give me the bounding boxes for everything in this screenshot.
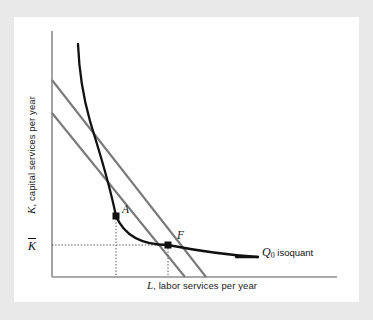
kbar-overline-symbol: K <box>28 238 36 252</box>
point-f-label: F <box>177 229 184 241</box>
y-axis-text: , capital services per year <box>26 96 37 206</box>
point-f-marker <box>165 242 172 249</box>
x-axis-text: , labor services per year <box>153 280 257 291</box>
isoquant-curve <box>78 44 258 257</box>
isoquant-symbol: Q <box>262 245 271 259</box>
y-axis-tick-label-kbar: K <box>28 238 36 254</box>
point-a-label: A <box>122 203 129 215</box>
point-a-marker <box>113 213 120 220</box>
plot-panel: K, capital services per year L, labor se… <box>14 17 359 302</box>
figure-root: K, capital services per year L, labor se… <box>0 0 373 320</box>
x-axis-title: L, labor services per year <box>72 279 332 291</box>
isocost-line-inner <box>52 113 185 277</box>
isoquant-label: Q0 isoquant <box>262 245 313 260</box>
y-axis-symbol: K <box>25 207 37 214</box>
isoquant-text: isoquant <box>275 247 314 258</box>
y-axis-title: K, capital services per year <box>25 75 37 235</box>
